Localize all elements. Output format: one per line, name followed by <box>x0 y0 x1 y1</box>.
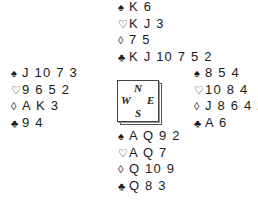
west-hearts: ♡9 6 5 2 <box>11 82 78 99</box>
south-hand: ♠A Q 9 2 ♡A Q 7 ◊Q 10 9 ♣Q 8 3 <box>118 128 181 194</box>
heart-icon: ♡ <box>118 145 129 162</box>
north-hand: ♠K 6 ♡K J 3 ◊7 5 ♣K J 10 7 5 2 <box>118 0 213 65</box>
diamond-icon: ◊ <box>11 98 22 115</box>
compass-box: N W E S <box>117 80 159 122</box>
north-spades: ♠K 6 <box>118 0 213 16</box>
east-clubs: ♣A 6 <box>194 115 258 132</box>
north-hearts: ♡K J 3 <box>118 16 213 33</box>
spade-icon: ♠ <box>118 128 129 145</box>
south-spades: ♠A Q 9 2 <box>118 128 181 145</box>
west-diamonds: ◊A K 3 <box>11 98 78 115</box>
club-icon: ♣ <box>11 115 22 132</box>
heart-icon: ♡ <box>11 82 22 99</box>
club-icon: ♣ <box>118 49 129 66</box>
south-hearts: ♡A Q 7 <box>118 145 181 162</box>
west-hand: ♠J 10 7 3 ♡9 6 5 2 ◊A K 3 ♣9 4 <box>11 65 78 131</box>
spade-icon: ♠ <box>194 65 205 82</box>
spade-icon: ♠ <box>11 65 22 82</box>
spade-icon: ♠ <box>118 0 129 16</box>
north-diamonds: ◊7 5 <box>118 32 213 49</box>
diamond-icon: ◊ <box>118 161 129 178</box>
club-icon: ♣ <box>194 115 205 132</box>
east-hand: ♠8 5 4 ♡10 8 4 ◊J 8 6 4 2 ♣A 6 <box>194 65 258 131</box>
diamond-icon: ◊ <box>194 98 205 115</box>
compass-south-label: S <box>135 107 141 119</box>
south-diamonds: ◊Q 10 9 <box>118 161 181 178</box>
north-clubs: ♣K J 10 7 5 2 <box>118 49 213 66</box>
south-clubs: ♣Q 8 3 <box>118 178 181 195</box>
compass-west-label: W <box>121 94 131 106</box>
club-icon: ♣ <box>118 178 129 195</box>
west-spades: ♠J 10 7 3 <box>11 65 78 82</box>
heart-icon: ♡ <box>118 16 129 33</box>
east-spades: ♠8 5 4 <box>194 65 258 82</box>
west-clubs: ♣9 4 <box>11 115 78 132</box>
compass-east-label: E <box>147 94 154 106</box>
east-diamonds: ◊J 8 6 4 2 <box>194 98 258 115</box>
heart-icon: ♡ <box>194 82 205 99</box>
east-hearts: ♡10 8 4 <box>194 82 258 99</box>
compass-north-label: N <box>134 82 142 94</box>
diamond-icon: ◊ <box>118 32 129 49</box>
